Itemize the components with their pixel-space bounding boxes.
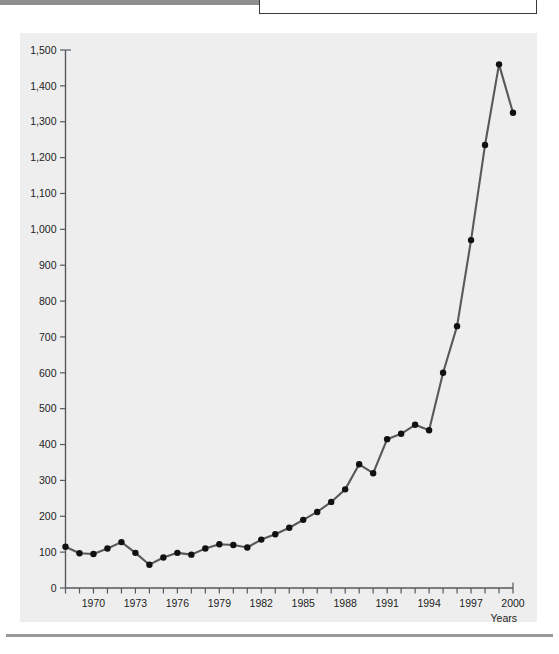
- data-point: [412, 422, 418, 428]
- x-axis-title: Years: [491, 612, 517, 622]
- data-point: [398, 431, 404, 437]
- data-point: [90, 551, 96, 557]
- line-chart-svg: 01002003004005006007008009001,0001,1001,…: [20, 33, 537, 622]
- data-point: [482, 142, 488, 148]
- y-axis-label: 1,300: [30, 115, 56, 127]
- data-point: [454, 323, 460, 329]
- data-point: [370, 470, 376, 476]
- data-point: [258, 536, 264, 542]
- data-point: [216, 541, 222, 547]
- data-point: [104, 545, 110, 551]
- top-gray-rule: [0, 0, 300, 5]
- x-axis-label: 1970: [82, 597, 106, 609]
- x-axis-label: 1976: [166, 597, 190, 609]
- data-point: [426, 427, 432, 433]
- data-point: [314, 509, 320, 515]
- x-axis-label: 1991: [375, 597, 399, 609]
- data-point: [342, 486, 348, 492]
- data-point: [384, 436, 390, 442]
- x-axis-label: 1994: [417, 597, 441, 609]
- data-point: [132, 550, 138, 556]
- chart-axes: [66, 50, 514, 588]
- x-axis-label: 1979: [208, 597, 232, 609]
- x-axis-label: 1973: [124, 597, 148, 609]
- data-point: [510, 110, 516, 116]
- data-point: [440, 370, 446, 376]
- y-axis-label: 1,400: [30, 80, 56, 92]
- y-axis-label: 800: [39, 295, 57, 307]
- data-point: [286, 525, 292, 531]
- data-point: [328, 499, 334, 505]
- data-point: [230, 542, 236, 548]
- y-axis-label: 300: [39, 474, 57, 486]
- y-axis-label: 1,000: [30, 223, 56, 235]
- data-point: [62, 544, 68, 550]
- data-point: [118, 539, 124, 545]
- y-axis-label: 700: [39, 331, 57, 343]
- data-point: [300, 517, 306, 523]
- data-point: [244, 544, 250, 550]
- data-point: [496, 61, 502, 67]
- data-point: [202, 545, 208, 551]
- data-point: [174, 550, 180, 556]
- bottom-gray-rule: [6, 634, 553, 637]
- y-axis-label: 600: [39, 367, 57, 379]
- data-point: [468, 237, 474, 243]
- y-axis-label: 100: [39, 546, 57, 558]
- data-series-line: [66, 64, 514, 564]
- data-point: [188, 551, 194, 557]
- data-point: [146, 561, 152, 567]
- chart-panel: 01002003004005006007008009001,0001,1001,…: [20, 33, 537, 622]
- x-axis-label: 1985: [292, 597, 316, 609]
- y-axis-label: 500: [39, 402, 57, 414]
- x-axis-label: 1988: [334, 597, 358, 609]
- data-point: [160, 554, 166, 560]
- x-axis-label: 1982: [250, 597, 274, 609]
- data-point: [272, 531, 278, 537]
- y-axis-label: 900: [39, 259, 57, 271]
- y-axis-label: 0: [51, 582, 57, 594]
- data-point: [356, 461, 362, 467]
- y-axis-label: 1,500: [30, 44, 56, 56]
- data-point: [76, 550, 82, 556]
- x-axis-label: 1997: [459, 597, 483, 609]
- y-axis-label: 200: [39, 510, 57, 522]
- y-axis-label: 1,200: [30, 151, 56, 163]
- x-axis-label: 2000: [501, 597, 525, 609]
- cut-off-box-outline: [259, 0, 537, 14]
- y-axis-label: 1,100: [30, 187, 56, 199]
- y-axis-label: 400: [39, 438, 57, 450]
